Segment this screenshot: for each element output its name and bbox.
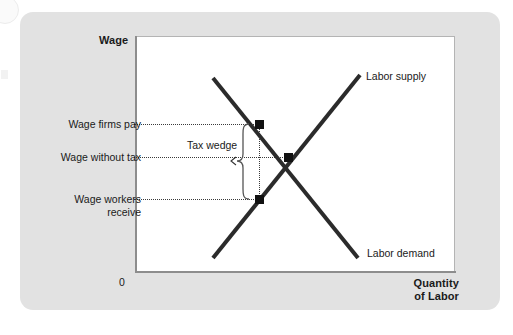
x-axis-title-line2: of Labor bbox=[414, 290, 459, 303]
x-axis-title-line1: Quantity bbox=[414, 277, 459, 290]
label-wage-workers-receive-line2: receive bbox=[74, 206, 141, 219]
marker-wage-workers-receive bbox=[255, 195, 264, 204]
tax-wedge-pointer-icon bbox=[231, 157, 236, 165]
label-wage-workers-receive-line1: Wage workers bbox=[74, 193, 141, 206]
marker-wage-firms-pay bbox=[255, 120, 264, 129]
x-axis-title: Quantity of Labor bbox=[414, 277, 459, 304]
tax-wedge-brace bbox=[237, 124, 249, 199]
origin-label: 0 bbox=[119, 276, 125, 289]
marker-equilibrium bbox=[284, 153, 293, 162]
label-wage-workers-receive: Wage workers receive bbox=[74, 193, 141, 220]
label-labor-demand: Labor demand bbox=[367, 247, 435, 260]
label-labor-supply: Labor supply bbox=[366, 70, 426, 83]
label-tax-wedge: Tax wedge bbox=[187, 139, 237, 152]
y-axis-title: Wage bbox=[99, 34, 128, 47]
figure-root: Wage Quantity of Labor 0 Wage firms pay … bbox=[0, 0, 513, 335]
label-wage-without-tax: Wage without tax bbox=[61, 151, 141, 164]
label-wage-firms-pay: Wage firms pay bbox=[68, 118, 141, 131]
